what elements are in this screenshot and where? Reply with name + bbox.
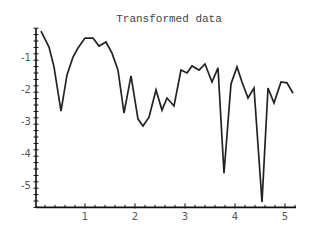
line-chart: Transformed data -1-2-3-4-512345 — [0, 0, 316, 232]
tick-labels: -1-2-3-4-512345 — [21, 52, 288, 222]
x-tick-label: 3 — [182, 211, 188, 222]
chart-title: Transformed data — [116, 13, 222, 25]
y-tick-label: -3 — [21, 116, 31, 127]
x-tick-label: 5 — [282, 211, 288, 222]
x-tick-label: 4 — [232, 211, 238, 222]
x-tick-label: 2 — [132, 211, 138, 222]
y-tick-label: -2 — [21, 84, 31, 95]
plot-area — [41, 31, 293, 202]
y-tick-label: -5 — [21, 180, 31, 191]
x-tick-label: 1 — [82, 211, 88, 222]
y-tick-label: -1 — [21, 52, 31, 63]
series-line-transformed — [41, 31, 293, 202]
y-tick-label: -4 — [21, 148, 31, 159]
